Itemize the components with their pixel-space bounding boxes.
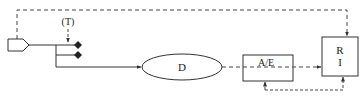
junction-diamond-icon: [74, 41, 82, 49]
i-label: I: [338, 56, 342, 68]
solid-branch-connectors: [29, 45, 141, 67]
d-label: D: [178, 61, 186, 73]
source-pentagon-node: [8, 39, 29, 51]
t-label: (T): [62, 16, 75, 28]
r-label: R: [336, 44, 344, 56]
flow-diagram: (T) D A/E R I: [0, 0, 363, 97]
ae-label: A/E: [258, 57, 274, 68]
junction-diamond-icon: [74, 51, 82, 59]
